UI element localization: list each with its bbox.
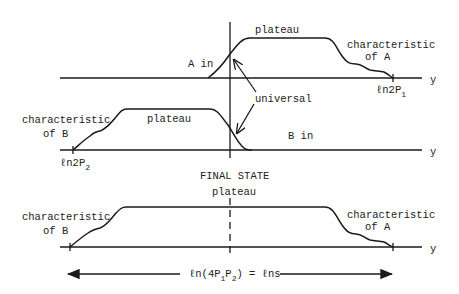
label-plateau-middle: plateau — [147, 113, 191, 125]
label-width-formula: ℓn(4P1P2) = ℓns — [189, 268, 281, 283]
panel-final-state: FINAL STATE plateau y characteristic of … — [22, 170, 436, 255]
label-characteristic-b-final-1: characteristic — [22, 211, 110, 223]
axis-label-y-middle: y — [430, 146, 436, 158]
label-a-in: A in — [188, 58, 213, 70]
final-state-title: FINAL STATE — [200, 170, 269, 182]
panel-top-a-in: y plateau A in characteristic of A ℓn2P1 — [60, 24, 436, 99]
label-characteristic-b-final-2: of B — [43, 225, 68, 237]
label-characteristic-a-top-2: of A — [365, 51, 391, 63]
label-characteristic-a-final-1: characteristic — [347, 209, 435, 221]
label-universal: universal — [255, 93, 312, 105]
axis-label-y-final: y — [430, 243, 436, 255]
label-ln2p2: ℓn2P2 — [60, 157, 90, 172]
arrow-universal-top — [234, 60, 256, 92]
width-annotation: ℓn(4P1P2) = ℓns — [68, 268, 392, 283]
label-characteristic-a-final-2: of A — [365, 221, 391, 233]
axis-label-y-top: y — [430, 74, 436, 86]
label-b-in: B in — [288, 130, 313, 142]
label-characteristic-b-middle-2: of B — [43, 128, 68, 140]
label-plateau-top: plateau — [255, 24, 299, 36]
label-plateau-final: plateau — [212, 186, 256, 198]
label-characteristic-a-top-1: characteristic — [347, 39, 435, 51]
curve-final-state — [70, 207, 393, 247]
arrow-universal-middle — [237, 104, 254, 133]
panel-middle-b-in: y plateau B in characteristic of B ℓn2P2 — [22, 109, 436, 172]
rapidity-plateau-diagram: y plateau A in characteristic of A ℓn2P1… — [0, 0, 459, 294]
label-characteristic-b-middle-1: characteristic — [22, 114, 110, 126]
label-ln2p1: ℓn2P1 — [376, 84, 406, 99]
universal-annotation: universal — [234, 60, 312, 133]
